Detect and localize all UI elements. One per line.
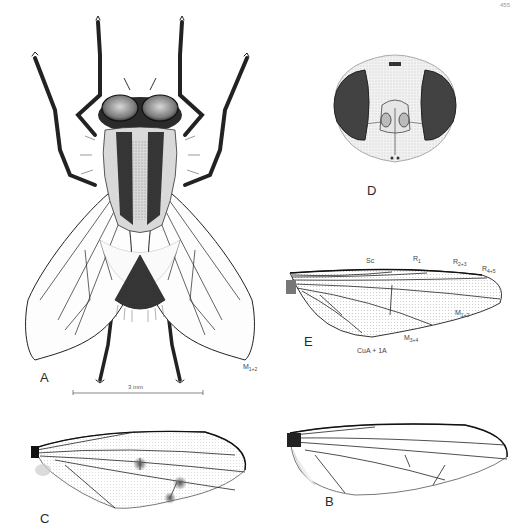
panel-label-d: D	[367, 184, 376, 197]
vein-label-r1: R1	[413, 255, 421, 264]
vein-label-cua-1a: CuA + 1A	[357, 347, 387, 354]
scale-bar-label: 3 mm	[128, 384, 143, 390]
vein-label-r45: R4+5	[482, 265, 496, 274]
figure-b-wing: B	[285, 415, 515, 515]
vein-label-sc: Sc	[366, 257, 374, 264]
compound-eye-right	[421, 70, 456, 140]
panel-label-b: B	[325, 495, 334, 508]
scale-bar	[73, 390, 203, 395]
compound-eye-right	[142, 95, 178, 121]
vein-label-r23: R2+3	[453, 258, 467, 267]
figure-d-head: D	[315, 50, 475, 180]
fly-dorsal-illustration	[0, 0, 270, 400]
antennae	[124, 78, 156, 90]
vein-label-m12: M1+2	[455, 309, 469, 318]
figure-c-wing: C	[25, 420, 255, 520]
vein-label-m34: M3+4	[404, 334, 418, 343]
vein-label-m12-a: M1+2	[243, 363, 257, 372]
wing-b-illustration	[285, 415, 515, 515]
head	[98, 78, 182, 133]
panel-label-e: E	[304, 335, 313, 348]
panel-label-c: C	[40, 512, 49, 525]
wing-c-illustration	[25, 420, 255, 520]
compound-eye-left	[334, 70, 369, 140]
figure-a-whole-fly: A M1+2 3 mm	[0, 0, 270, 400]
compound-eye-left	[102, 95, 138, 121]
head-frontal-illustration	[315, 50, 475, 180]
panel-label-a: A	[40, 371, 49, 384]
figure-e-wing: Sc R1 R2+3 R4+5 M1+2 M3+4 CuA + 1A E	[282, 255, 520, 355]
page-number: 455	[500, 2, 510, 8]
